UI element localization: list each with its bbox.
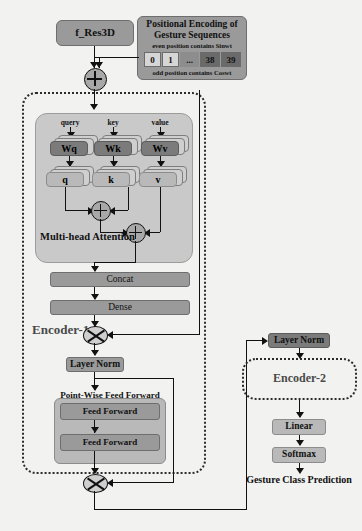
arrow-residual1-to-ln (91, 350, 99, 356)
point-wise-ffn-title: Point-Wise Feed Forward (40, 390, 180, 400)
line-k-down (128, 187, 129, 210)
multi-head-attention-title: Multi-head Attention (40, 231, 135, 242)
softmax-box: Softmax (272, 447, 326, 463)
arrow-skip1-into-residual1 (107, 331, 113, 339)
residual-operator-1 (83, 326, 108, 345)
k-stack: k (92, 166, 142, 190)
q-box: q (46, 172, 84, 187)
wq-box: Wq (50, 141, 88, 156)
scan-artifact (8, 2, 11, 12)
skip2-horizontal-bottom (112, 482, 173, 483)
wk-stack: Wk (94, 135, 142, 159)
encoder2-layer-norm-box: Layer Norm (268, 333, 330, 348)
pe-cell-1: 1 (162, 52, 179, 67)
skip1-vertical (199, 90, 200, 335)
line-out-right (94, 509, 247, 510)
pe-odd-note: odd position contains Coswt (137, 69, 247, 76)
pe-cell-ellipsis: ... (180, 52, 199, 67)
attention-qk-operator (91, 201, 111, 221)
pe-cell-39: 39 (221, 52, 241, 67)
pe-cell-38: 38 (200, 52, 220, 67)
attention-input-value: value (140, 118, 180, 127)
line-attn-out-h (94, 262, 135, 263)
dense-box: Dense (50, 300, 190, 315)
line-v-down (160, 187, 161, 232)
line-pe-to-add-h (94, 57, 139, 58)
gesture-class-prediction-label: Gesture Class Prediction (232, 474, 362, 485)
wk-box: Wk (94, 141, 132, 156)
pe-title-line1: Positional Encoding of (137, 19, 247, 29)
line-q-down (65, 187, 66, 210)
attention-input-key: key (98, 118, 128, 127)
feed-forward-box-2: Feed Forward (60, 434, 160, 451)
arrow-linear-to-softmax (296, 440, 304, 446)
encoder1-layer-norm-box: Layer Norm (66, 357, 124, 372)
pe-even-note: even position contains Sinwt (137, 42, 247, 49)
q-stack: q (46, 166, 96, 190)
pe-title-line2: Gesture Sequences (137, 30, 247, 40)
wq-stack: Wq (50, 135, 98, 159)
encoder2-label: Encoder-2 (242, 371, 357, 386)
arrow-ff1-to-ff2 (91, 427, 99, 433)
add-operator-input (84, 68, 107, 91)
skip2-horizontal-top (94, 378, 174, 379)
linear-box: Linear (272, 419, 326, 435)
skip1-horizontal (112, 334, 199, 335)
pe-index-cells: 0 1 ... 38 39 (144, 52, 241, 67)
concat-box: Concat (50, 272, 190, 287)
line-attn-out-v1 (135, 241, 136, 263)
encoder1-label: Encoder-1 (32, 322, 89, 338)
k-box: k (92, 172, 130, 187)
residual-operator-2 (83, 474, 108, 493)
line-out-down (94, 491, 95, 510)
arrow-encoder2-to-linear (296, 412, 304, 418)
attention-input-query: query (50, 118, 90, 127)
f-res3d-box: f_Res3D (56, 20, 134, 46)
wv-box: Wv (141, 141, 179, 156)
v-stack: v (139, 166, 189, 190)
wv-stack: Wv (141, 135, 189, 159)
pe-cell-0: 0 (144, 52, 161, 67)
figure-canvas: f_Res3D Positional Encoding of Gesture S… (0, 0, 362, 531)
feed-forward-box-1: Feed Forward (60, 403, 160, 420)
v-box: v (139, 172, 177, 187)
